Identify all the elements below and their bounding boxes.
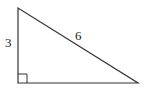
right-triangle-figure: 3 6 [0, 0, 149, 89]
right-angle-marker [18, 74, 27, 83]
hypotenuse-label: 6 [75, 29, 82, 42]
vertical-leg-label: 3 [5, 36, 12, 49]
triangle-drawing [0, 0, 149, 89]
triangle-outline [18, 8, 138, 83]
